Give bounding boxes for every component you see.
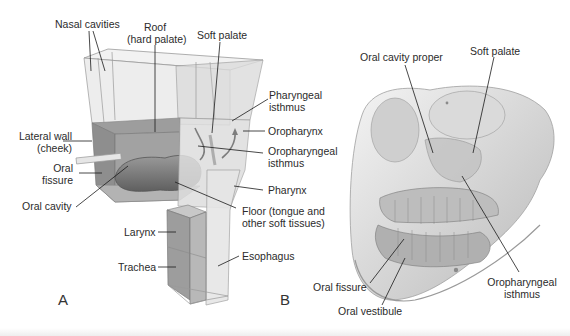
label-oral-fissure-a: Oral fissure [30,162,73,186]
label-oral-cavity-proper: Oral cavity proper [360,51,443,63]
figure: Nasal cavities Roof (hard palate) Soft p… [0,0,570,336]
label-floor: Floor (tongue and other soft tissues) [242,205,325,229]
label-esophagus: Esophagus [242,250,295,262]
label-lateral-wall-line2: (cheek) [4,142,72,154]
label-soft-palate-a: Soft palate [197,29,247,41]
label-roof: Roof (hard palate) [127,21,183,45]
label-roof-line2: (hard palate) [127,33,183,45]
pharynx-tube [206,170,240,305]
label-oral-fissure-a-line1: Oral [30,162,73,174]
panel-letter-a: A [58,291,68,308]
label-oral-cavity: Oral cavity [22,200,72,212]
label-oropharyngeal-isthmus-b-line2: isthmus [482,288,562,300]
label-pharyngeal-isthmus-line2: isthmus [269,101,322,113]
label-soft-palate-b: Soft palate [470,45,520,57]
label-nasal-cavities: Nasal cavities [55,18,120,30]
label-oropharynx: Oropharynx [268,125,323,137]
label-oropharyngeal-isthmus-a-line1: Oropharyngeal [268,145,337,157]
label-floor-line1: Floor (tongue and [242,205,325,217]
label-trachea: Trachea [118,261,156,273]
panel-letter-b: B [280,291,290,308]
label-roof-line1: Roof [127,21,183,33]
label-oropharyngeal-isthmus-a: Oropharyngeal isthmus [268,145,337,169]
label-oropharyngeal-isthmus-b: Oropharyngeal isthmus [482,276,562,300]
label-pharynx: Pharynx [268,184,307,196]
label-floor-line2: other soft tissues) [242,217,325,229]
label-pharyngeal-isthmus: Pharyngeal isthmus [269,89,322,113]
label-oral-vestibule: Oral vestibule [338,305,402,317]
label-pharyngeal-isthmus-line1: Pharyngeal [269,89,322,101]
label-oropharyngeal-isthmus-a-line2: isthmus [268,157,337,169]
label-oral-fissure-b: Oral fissure [313,281,367,293]
label-oropharyngeal-isthmus-b-line1: Oropharyngeal [482,276,562,288]
label-lateral-wall: Lateral wall (cheek) [4,130,72,154]
label-larynx: Larynx [124,226,156,238]
label-lateral-wall-line1: Lateral wall [4,130,72,142]
label-oral-fissure-a-line2: fissure [30,174,73,186]
nasal-cavity-box [84,49,263,125]
footer-band [0,328,570,336]
